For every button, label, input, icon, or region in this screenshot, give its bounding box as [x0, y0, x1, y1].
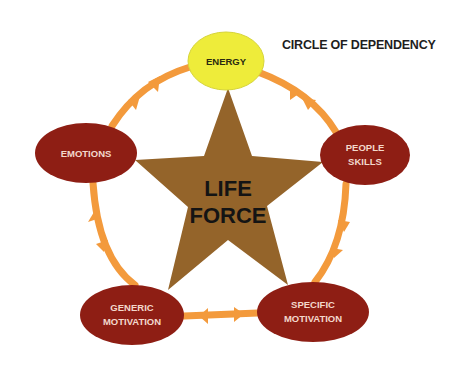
center-label-line2: FORCE: [190, 202, 267, 229]
node-generic-motivation-label: GENERIC MOTIVATION: [103, 301, 161, 329]
node-generic-motivation-label-line1: GENERIC: [103, 301, 161, 315]
node-energy-label-line1: ENERGY: [206, 55, 246, 69]
node-emotions-label: EMOTIONS: [61, 147, 112, 161]
node-energy-label: ENERGY: [206, 55, 246, 69]
node-people-skills-label-line2: SKILLS: [346, 155, 385, 169]
node-specific-motivation-label-line2: MOTIVATION: [284, 312, 342, 326]
connector-generic-motivation-emotions: [93, 183, 135, 285]
node-generic-motivation-label-line2: MOTIVATION: [103, 315, 161, 329]
connector-energy-people-skills: [258, 72, 336, 132]
arrow-head-icon: [199, 308, 208, 324]
center-label: LIFE FORCE: [190, 175, 267, 229]
connector-people-skills-specific-motivation: [315, 184, 346, 282]
center-label-line1: LIFE: [190, 175, 267, 202]
node-specific-motivation-label-line1: SPECIFIC: [284, 298, 342, 312]
node-specific-motivation-label: SPECIFIC MOTIVATION: [284, 298, 342, 326]
node-emotions-label-line1: EMOTIONS: [61, 147, 112, 161]
connector-specific-motivation-generic-motivation: [184, 313, 258, 316]
diagram-title: CIRCLE OF DEPENDENCY: [282, 38, 442, 52]
arrow-head-icon: [234, 307, 244, 322]
connector-emotions-energy: [112, 67, 190, 126]
node-people-skills-label: PEOPLE SKILLS: [346, 141, 385, 169]
node-people-skills-label-line1: PEOPLE: [346, 141, 385, 155]
